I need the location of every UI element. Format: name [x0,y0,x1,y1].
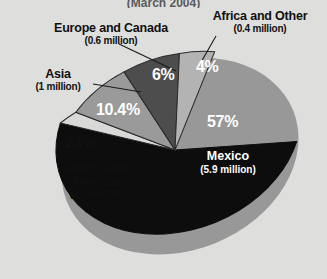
label-mexico-name: Mexico [178,150,278,164]
label-asia-name: Asia [6,68,110,82]
percent-other-latin-america: 24% [65,134,96,152]
label-europe-and-canada: Europe and Canada (0.6 million) [36,22,186,46]
label-other-latin-america: Other Latin America (2.5 million) [34,162,158,200]
label-mexico-value: (5.9 million) [178,164,278,175]
label-otherla-name: Other Latin [34,162,158,176]
label-mexico: Mexico (5.9 million) [178,150,278,175]
label-africa-name: Africa and Other [196,10,324,24]
pie-chart: (March 2004) Europe and Canada (0.6 mill [0,0,327,279]
percent-asia: 10.4% [96,101,140,119]
label-europe-name: Europe and Canada [36,22,186,36]
label-europe-value: (0.6 million) [36,36,186,47]
label-asia-value: (1 million) [6,82,110,93]
percent-mexico: 57% [207,113,238,131]
percent-africa-and-other: 4% [196,58,219,76]
label-africa-and-other: Africa and Other (0.4 million) [196,10,324,34]
label-otherla-name2: America [34,176,158,190]
label-asia: Asia (1 million) [6,68,110,92]
label-africa-value: (0.4 million) [196,24,324,35]
percent-europe-and-canada: 6% [152,66,175,84]
label-otherla-value: (2.5 million) [34,189,158,200]
